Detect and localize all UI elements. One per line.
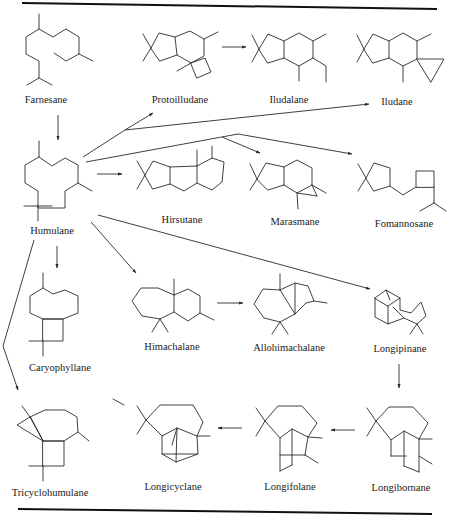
label-iludalane: Iludalane bbox=[269, 94, 308, 105]
arrow-humulane-to-fomannosane bbox=[86, 134, 352, 162]
label-tricyclohumulane: Tricyclohumulane bbox=[12, 487, 89, 498]
structure-allohimachalane bbox=[254, 274, 327, 334]
label-himachalane: Himachalane bbox=[144, 341, 200, 352]
label-longipinane: Longipinane bbox=[373, 343, 426, 354]
bottom-rule bbox=[18, 509, 432, 514]
arrow-humulane-to-longipinane bbox=[98, 215, 370, 289]
top-rule bbox=[22, 3, 437, 9]
label-farnesane: Farnesane bbox=[25, 94, 68, 105]
stray-mark bbox=[113, 399, 124, 405]
structure-longicyclane bbox=[137, 405, 210, 462]
sesquiterpene-biosynthesis-diagram: Farnesane Protoilludane Iludalane Iludan… bbox=[0, 0, 453, 524]
structure-longipinane bbox=[375, 290, 426, 334]
arrow-humulane-to-marasmane bbox=[222, 137, 260, 153]
structure-himachalane bbox=[132, 279, 214, 332]
structure-longibornane bbox=[367, 407, 432, 472]
structure-farnesane bbox=[26, 14, 93, 85]
arrow-humulane-to-himachalane bbox=[91, 222, 136, 273]
label-marasmane: Marasmane bbox=[271, 216, 320, 227]
structure-humulane bbox=[24, 141, 92, 221]
structure-iludalane bbox=[252, 33, 326, 82]
arrow-humulane-to-protoilludane bbox=[83, 113, 153, 157]
label-longibornane: Longibornane bbox=[372, 482, 431, 493]
structure-longifolane bbox=[256, 406, 322, 471]
label-fomannosane: Fomannosane bbox=[375, 218, 434, 229]
structure-iludane bbox=[357, 33, 444, 82]
label-longicyclane: Longicyclane bbox=[144, 481, 201, 492]
arrow-humulane-to-iludane bbox=[125, 104, 369, 130]
label-caryophyllane: Caryophyllane bbox=[29, 362, 91, 373]
label-humulane: Humulane bbox=[30, 225, 74, 236]
label-allohimachalane: Allohimachalane bbox=[253, 342, 325, 353]
label-hirsutane: Hirsutane bbox=[162, 214, 203, 225]
label-iludane: Iludane bbox=[381, 96, 413, 107]
structure-caryophyllane bbox=[29, 273, 78, 356]
structure-hirsutane bbox=[137, 146, 224, 191]
structure-tricyclohumulane bbox=[17, 406, 89, 481]
structure-marasmane bbox=[250, 160, 326, 209]
structure-protoilludane bbox=[143, 31, 218, 78]
label-protoilludane: Protoilludane bbox=[152, 94, 209, 105]
structure-fomannosane bbox=[358, 163, 446, 211]
label-longifolane: Longifolane bbox=[264, 481, 316, 492]
